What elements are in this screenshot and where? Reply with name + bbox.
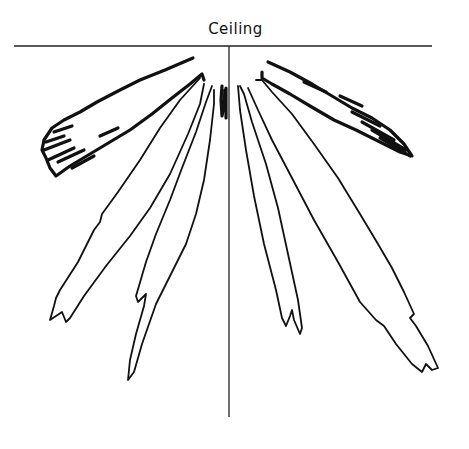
center-left-spike bbox=[221, 86, 226, 118]
right-outer-lobe-hatch bbox=[304, 82, 410, 156]
radiation-pattern-figure: Ceiling bbox=[0, 0, 469, 449]
lobes-group bbox=[42, 58, 438, 380]
left-inner-lobe bbox=[128, 86, 214, 380]
left-outer-lobe-hatch bbox=[44, 126, 118, 168]
radiation-lobes-diagram bbox=[0, 0, 469, 449]
right-inner-lobe bbox=[238, 86, 302, 334]
